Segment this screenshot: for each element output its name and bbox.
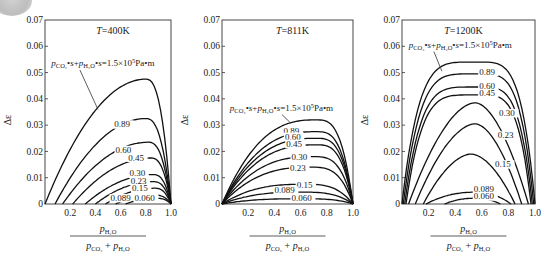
x-tick-label: 0.2 xyxy=(64,208,76,218)
curve-label: 0.089 xyxy=(111,193,132,203)
curve-label: 0.45 xyxy=(286,139,302,149)
curve-label: 0.15 xyxy=(297,180,313,190)
y-tick-label: 0.04 xyxy=(383,94,400,104)
y-tick-label: 0.07 xyxy=(383,15,400,25)
y-axis-label: Δε xyxy=(2,115,13,126)
y-tick-label: 0.03 xyxy=(203,120,220,130)
annotation-leader xyxy=(80,70,98,109)
y-tick-label: 0.01 xyxy=(203,173,220,183)
chart-panel-2: 00.010.020.030.040.050.060.070.20.40.60.… xyxy=(179,15,359,252)
y-tick-label: 0.06 xyxy=(203,41,220,51)
y-tick-label: 0.07 xyxy=(26,15,43,25)
x-tick-label: 0.6 xyxy=(115,208,127,218)
chart-panel-3: 00.010.020.030.040.050.060.070.20.40.60.… xyxy=(359,15,541,252)
y-tick-label: 0.04 xyxy=(26,94,43,104)
y-tick-label: 0.03 xyxy=(383,120,400,130)
emissivity-correction-figure: 00.010.020.030.040.050.060.070.20.40.60.… xyxy=(0,0,552,257)
x-axis-label-denominator: pCO₂ + pH₂O xyxy=(446,240,491,252)
curve-label: 0.30 xyxy=(499,108,515,118)
curve-label: 0.30 xyxy=(291,152,307,162)
y-tick-label: 0 xyxy=(38,199,43,209)
x-tick-label: 1.0 xyxy=(529,208,541,218)
x-tick-label: 0.8 xyxy=(502,208,514,218)
annotation-text: pCO₂•s+pH₂O•s=1.5×105Pa•m xyxy=(50,57,154,69)
panel-title: T=1200K xyxy=(444,25,483,36)
plot-frame xyxy=(45,20,171,204)
y-tick-label: 0.07 xyxy=(203,15,220,25)
y-tick-label: 0 xyxy=(215,199,220,209)
panel-title: T=811K xyxy=(276,25,310,36)
curve-1_5 xyxy=(45,79,171,204)
x-tick-label: 0.6 xyxy=(476,208,488,218)
x-tick-label: 1.0 xyxy=(165,208,177,218)
y-tick-label: 0.02 xyxy=(26,147,43,157)
y-tick-label: 0.06 xyxy=(383,41,400,51)
y-axis-label: Δε xyxy=(359,115,370,126)
curve-label: 0.45 xyxy=(479,88,495,98)
curve-label: 0.23 xyxy=(498,130,514,140)
curve-0_30 xyxy=(222,157,353,204)
y-axis-label: Δε xyxy=(179,115,190,126)
curve-label: 0.23 xyxy=(290,163,306,173)
x-tick-label: 0.8 xyxy=(321,208,333,218)
x-axis-label-numerator: pH₂O xyxy=(278,223,296,235)
y-tick-label: 0 xyxy=(395,199,400,209)
curve-label: 0.45 xyxy=(128,153,144,163)
y-tick-label: 0.05 xyxy=(383,68,400,78)
y-tick-label: 0.05 xyxy=(26,68,43,78)
x-tick-label: 1.0 xyxy=(347,208,359,218)
y-tick-label: 0.05 xyxy=(203,68,220,78)
x-axis-label-denominator: pCO₂ + pH₂O xyxy=(85,240,130,252)
y-tick-label: 0.06 xyxy=(26,41,43,51)
panel-title: T=400K xyxy=(96,25,130,36)
x-tick-label: 0.2 xyxy=(242,208,254,218)
curve-label: 0.89 xyxy=(114,119,130,129)
x-tick-label: 0.2 xyxy=(423,208,435,218)
curve-label: 0.060 xyxy=(134,193,155,203)
x-tick-label: 0.4 xyxy=(268,208,280,218)
y-tick-label: 0.01 xyxy=(26,173,43,183)
y-tick-label: 0.03 xyxy=(26,120,43,130)
annotation-text: pCO₂•s+pH₂O•s=1.5×105Pa•m xyxy=(229,102,333,114)
chart-panel-1: 00.010.020.030.040.050.060.070.20.40.60.… xyxy=(2,15,177,252)
y-tick-label: 0.04 xyxy=(203,94,220,104)
x-tick-label: 0.4 xyxy=(449,208,461,218)
x-axis-label-numerator: pH₂O xyxy=(459,223,477,235)
x-tick-label: 0.4 xyxy=(89,208,101,218)
curve-label: 0.060 xyxy=(474,191,495,201)
curve-label: 0.060 xyxy=(291,193,312,203)
y-tick-label: 0.01 xyxy=(383,173,400,183)
x-axis-label-numerator: pH₂O xyxy=(99,223,117,235)
x-axis-label-denominator: pCO₂ + pH₂O xyxy=(265,240,310,252)
x-tick-label: 0.8 xyxy=(140,208,152,218)
curve-label: 0.89 xyxy=(479,67,495,77)
y-tick-label: 0.02 xyxy=(203,147,220,157)
curve-label: 0.15 xyxy=(495,159,511,169)
curve-0_060 xyxy=(222,199,353,204)
annotation-leader xyxy=(282,115,290,123)
y-tick-label: 0.02 xyxy=(383,147,400,157)
x-tick-label: 0.6 xyxy=(295,208,307,218)
annotation-text: pCO₂•s+pH₂O•s=1.5×105Pa•m xyxy=(408,39,512,51)
